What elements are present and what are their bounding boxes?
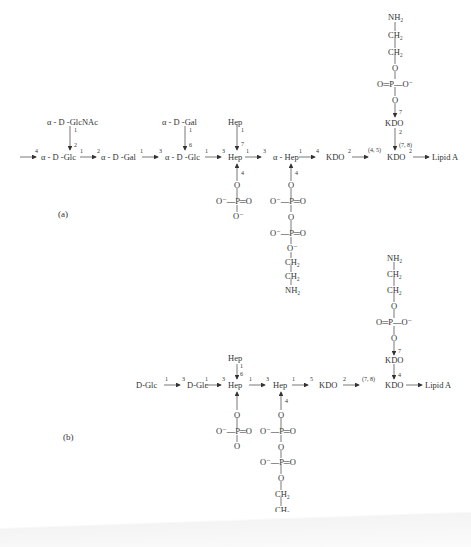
lipid-a: Lipid A xyxy=(432,152,458,162)
link-label: 2 xyxy=(74,142,77,149)
ppea-o-mid: O xyxy=(288,212,294,222)
ppea-o-mid: O xyxy=(278,442,284,452)
link-label: (7, 8) xyxy=(362,376,375,383)
ppea-p2: O⁻—P═O xyxy=(260,457,296,467)
link-label: 4 xyxy=(316,148,319,155)
pea-nh2: NH₂ xyxy=(388,12,403,22)
pea-o2: O xyxy=(391,333,397,343)
residue-b-hep-branch: Hep xyxy=(228,353,242,363)
phosphate-o-minus: O⁻ xyxy=(233,211,244,221)
link-label: 1 xyxy=(205,148,208,155)
link-label: 1 xyxy=(80,148,83,155)
link-label: 4 xyxy=(398,372,401,379)
ppea-p1: O⁻—P═O xyxy=(270,196,306,206)
link-label: 1 xyxy=(140,148,143,155)
link-label: 7 xyxy=(241,141,244,148)
link-label: 3 xyxy=(159,148,162,155)
link-label: (4, 5) xyxy=(368,147,381,154)
link-label: 3 xyxy=(266,376,269,383)
link-label: 7 xyxy=(398,348,401,355)
residue-a-kdo-1: KDO xyxy=(326,152,344,162)
link-label: 3 xyxy=(222,376,225,383)
link-label: 2 xyxy=(97,148,100,155)
link-label: 2 xyxy=(343,376,346,383)
pea-ch2b: CH₂ xyxy=(388,47,403,57)
residue-b-kdo-top: KDO xyxy=(385,355,403,365)
link-label: 4 xyxy=(285,398,288,405)
ppea-ch2b: CH₂ xyxy=(285,271,300,281)
residue-b-glc-1: D-Glc xyxy=(136,380,157,390)
residue-a-hep: Hep xyxy=(228,152,242,162)
pea-o2: O xyxy=(392,95,398,105)
link-label: 3 xyxy=(263,148,266,155)
ppea-o: O xyxy=(288,180,294,190)
link-label: 4 xyxy=(241,170,244,177)
pea-ch2b: CH₂ xyxy=(387,285,402,295)
residue-a-alpha-hep: α - Hep xyxy=(273,152,299,162)
ppea-ch2a: CH₂ xyxy=(285,257,300,267)
residue-a-glcnac: α - D -GlcNAc xyxy=(47,117,98,127)
residue-a-gal-branch: α - D -Gal xyxy=(162,117,197,127)
link-label: 1 xyxy=(74,127,77,134)
phosphate-group: O⁻—P═O xyxy=(216,196,252,206)
link-label: 5 xyxy=(310,376,313,383)
link-label: 1 xyxy=(246,148,249,155)
residue-a-glc-1: α - D -Glc xyxy=(41,152,76,162)
phosphate-o: O xyxy=(234,410,240,420)
link-label: 1 xyxy=(165,376,168,383)
pea-nh2: NH₂ xyxy=(387,253,402,263)
link-label: 4 xyxy=(295,170,298,177)
ppea-nh2: NH₂ xyxy=(285,285,300,295)
ppea-o3: O xyxy=(278,473,284,483)
link-label: 3 xyxy=(182,376,185,383)
link-label: 1 xyxy=(240,363,243,370)
ppea-o: O xyxy=(278,410,284,420)
link-label: 6 xyxy=(189,142,192,149)
link-label: 1 xyxy=(292,376,295,383)
link-label: (7, 8) xyxy=(399,142,412,149)
link-label: 1 xyxy=(241,127,244,134)
residue-a-kdo-top: KDO xyxy=(385,118,403,128)
link-label: 1 xyxy=(299,148,302,155)
pea-o: O xyxy=(391,301,397,311)
pea-o: O xyxy=(392,63,398,73)
ppea-ch2a: CH₂ xyxy=(275,489,290,499)
pea-ch2a: CH₂ xyxy=(388,30,403,40)
ppea-p2: O⁻—P═O xyxy=(270,228,306,238)
link-label: 7 xyxy=(399,109,402,116)
link-label: 6 xyxy=(240,371,243,378)
link-label: 2 xyxy=(409,148,412,155)
link-label: 1 xyxy=(189,127,192,134)
panel-b-label: (b) xyxy=(63,432,74,442)
ppea-o3: O⁻ xyxy=(287,243,298,253)
residue-a-hep-branch: Hep xyxy=(228,117,242,127)
residue-b-hep-2: Hep xyxy=(273,380,287,390)
link-label: 2 xyxy=(399,129,402,136)
link-label: 1 xyxy=(249,376,252,383)
residue-b-hep-1: Hep xyxy=(228,380,242,390)
pea-phosphate: O═P—O⁻ xyxy=(377,79,413,89)
residue-b-kdo-2: KDO xyxy=(385,380,403,390)
phosphate-o: O xyxy=(234,180,240,190)
residue-a-gal: α - D -Gal xyxy=(101,152,136,162)
residue-a-glc-2: α - D -Glc xyxy=(165,152,200,162)
link-label: 4 xyxy=(35,148,38,155)
ppea-p1: O⁻—P═O xyxy=(260,426,296,436)
link-label: 2 xyxy=(348,148,351,155)
panel-a-label: (a) xyxy=(58,209,68,219)
link-label: 1 xyxy=(205,376,208,383)
residue-a-kdo-2: KDO xyxy=(387,152,405,162)
phosphate-o2: O xyxy=(234,441,240,451)
pea-ch2a: CH₂ xyxy=(387,269,402,279)
pea-phosphate: O═P—O⁻ xyxy=(376,317,412,327)
residue-b-kdo-1: KDO xyxy=(319,380,337,390)
lipid-a: Lipid A xyxy=(425,380,451,390)
page-edge-shadow xyxy=(0,512,471,547)
link-label: 3 xyxy=(222,148,225,155)
phosphate-group: O⁻—P═O xyxy=(216,426,252,436)
